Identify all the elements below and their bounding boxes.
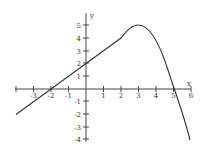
x-axis-label: x bbox=[187, 80, 191, 88]
svg-text:1: 1 bbox=[101, 92, 105, 100]
svg-text:4: 4 bbox=[77, 35, 82, 43]
svg-text:2: 2 bbox=[77, 60, 81, 68]
svg-text:5: 5 bbox=[171, 92, 175, 100]
svg-text:-3: -3 bbox=[74, 124, 81, 132]
svg-text:-1: -1 bbox=[65, 92, 72, 100]
svg-text:2: 2 bbox=[119, 92, 123, 100]
function-graph: -3 -2 -1 1 2 3 4 5 6 5 4 3 2 1 -1 -2 -3 … bbox=[0, 0, 201, 155]
svg-text:-2: -2 bbox=[74, 111, 81, 119]
y-tick-labels: 5 4 3 2 1 -1 -2 -3 -4 bbox=[74, 22, 81, 144]
x-tick-labels: -3 -2 -1 1 2 3 4 5 6 bbox=[30, 92, 194, 100]
svg-text:6: 6 bbox=[189, 92, 194, 100]
svg-text:-2: -2 bbox=[48, 92, 55, 100]
svg-text:-4: -4 bbox=[74, 136, 81, 144]
y-axis bbox=[83, 13, 89, 142]
svg-text:-1: -1 bbox=[74, 98, 81, 106]
svg-text:4: 4 bbox=[154, 92, 159, 100]
svg-text:3: 3 bbox=[77, 48, 81, 56]
svg-text:-3: -3 bbox=[30, 92, 37, 100]
svg-text:5: 5 bbox=[77, 22, 81, 30]
svg-text:3: 3 bbox=[136, 92, 140, 100]
function-curve bbox=[16, 25, 190, 140]
svg-text:1: 1 bbox=[77, 73, 81, 81]
y-axis-label: y bbox=[89, 12, 94, 20]
